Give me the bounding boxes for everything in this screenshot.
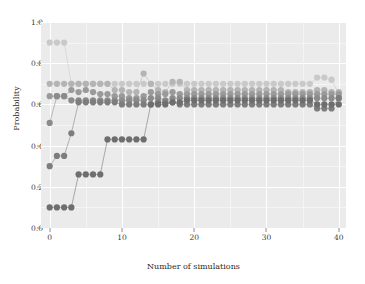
data-point (133, 136, 139, 142)
data-point (256, 81, 262, 87)
data-point (148, 101, 154, 107)
data-point (83, 87, 89, 93)
data-point (83, 171, 89, 177)
data-point (227, 81, 233, 87)
data-point (169, 89, 175, 95)
data-point (162, 101, 168, 107)
data-point (141, 70, 147, 76)
data-point (278, 81, 284, 87)
data-point (321, 95, 327, 101)
data-point (191, 81, 197, 87)
data-point (256, 97, 262, 103)
data-point (75, 171, 81, 177)
data-point (104, 99, 110, 105)
data-point (249, 81, 255, 87)
data-point (141, 136, 147, 142)
probability-convergence-chart: Probability Number of simulations 0.00.2… (0, 0, 365, 284)
data-point (206, 81, 212, 87)
data-point (141, 101, 147, 107)
data-point (169, 79, 175, 85)
data-point (133, 101, 139, 107)
data-point (328, 77, 334, 83)
data-point (47, 163, 53, 169)
data-point (285, 81, 291, 87)
data-series (47, 97, 342, 210)
data-point (97, 81, 103, 87)
data-point (54, 93, 60, 99)
data-point (148, 81, 154, 87)
data-point (263, 97, 269, 103)
data-point (47, 93, 53, 99)
plot-panel (41, 22, 346, 228)
data-point (314, 101, 320, 107)
data-point (314, 95, 320, 101)
data-point (336, 95, 342, 101)
data-point (242, 97, 248, 103)
data-point (263, 81, 269, 87)
data-point (112, 87, 118, 93)
data-point (75, 89, 81, 95)
data-point (119, 136, 125, 142)
data-point (54, 81, 60, 87)
data-point (104, 81, 110, 87)
data-point (242, 81, 248, 87)
data-point (155, 81, 161, 87)
data-point (162, 91, 168, 97)
data-point (47, 120, 53, 126)
data-point (61, 204, 67, 210)
data-point (148, 89, 154, 95)
data-point (213, 97, 219, 103)
data-point (47, 204, 53, 210)
data-point (321, 101, 327, 107)
data-point (220, 97, 226, 103)
data-point (112, 99, 118, 105)
data-point (191, 97, 197, 103)
data-point (61, 40, 67, 46)
data-point (177, 79, 183, 85)
data-point (184, 81, 190, 87)
data-point (104, 91, 110, 97)
data-point (155, 101, 161, 107)
data-point (300, 81, 306, 87)
data-point (119, 101, 125, 107)
data-point (271, 81, 277, 87)
x-tick-label: 40 (324, 233, 354, 242)
x-tick-label: 10 (107, 233, 137, 242)
x-tick-label: 20 (179, 233, 209, 242)
data-point (126, 136, 132, 142)
data-point (68, 81, 74, 87)
data-point (126, 89, 132, 95)
x-tick-mark (194, 228, 195, 232)
data-point (68, 97, 74, 103)
data-point (292, 81, 298, 87)
data-point (314, 75, 320, 81)
data-point (97, 99, 103, 105)
data-point (68, 204, 74, 210)
data-point (234, 97, 240, 103)
data-point (227, 97, 233, 103)
data-point (90, 171, 96, 177)
data-point (184, 97, 190, 103)
data-point (300, 97, 306, 103)
data-point (133, 89, 139, 95)
data-point (68, 87, 74, 93)
series-line (50, 98, 339, 166)
data-point (148, 95, 154, 101)
data-point (220, 81, 226, 87)
data-point (321, 75, 327, 81)
x-tick-mark (121, 228, 122, 232)
data-point (90, 81, 96, 87)
data-point (61, 81, 67, 87)
data-point (68, 130, 74, 136)
data-series-layer (41, 22, 346, 228)
data-point (206, 97, 212, 103)
data-point (278, 97, 284, 103)
data-point (119, 81, 125, 87)
data-point (119, 87, 125, 93)
series-line (50, 100, 339, 207)
data-point (47, 81, 53, 87)
data-point (336, 101, 342, 107)
data-point (126, 81, 132, 87)
data-point (292, 97, 298, 103)
x-tick-label: 0 (35, 233, 65, 242)
